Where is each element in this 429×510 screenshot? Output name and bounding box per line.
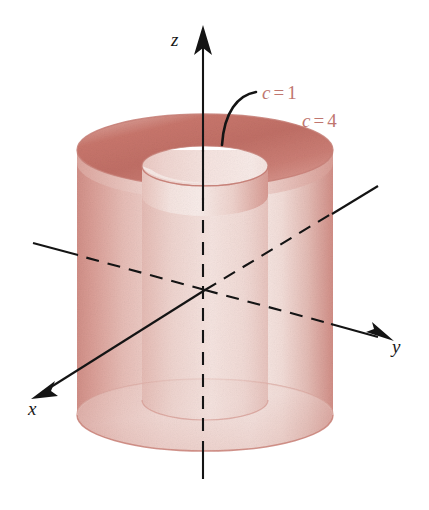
y-axis-label: y xyxy=(392,337,400,356)
level-surface-diagram xyxy=(0,0,429,510)
inner-label-value: 1 xyxy=(287,82,297,103)
x-axis-label: x xyxy=(28,399,36,418)
inner-label-equals: = xyxy=(270,82,287,103)
outer-label-equals: = xyxy=(310,110,327,131)
figure-container: z y x c=1 c=4 xyxy=(0,0,429,510)
outer-label-value: 4 xyxy=(327,110,337,131)
y-axis-far-tail xyxy=(33,243,78,255)
inner-cylinder-surface xyxy=(142,146,268,420)
inner-cylinder-label: c=1 xyxy=(262,83,297,102)
outer-cylinder-label: c=4 xyxy=(302,111,337,130)
z-axis-label: z xyxy=(171,30,178,49)
y-axis-arrowhead xyxy=(366,322,394,341)
x-axis-far-tail xyxy=(332,186,378,214)
x-axis-arrowhead xyxy=(31,381,58,399)
inner-cylinder-body xyxy=(142,196,268,420)
